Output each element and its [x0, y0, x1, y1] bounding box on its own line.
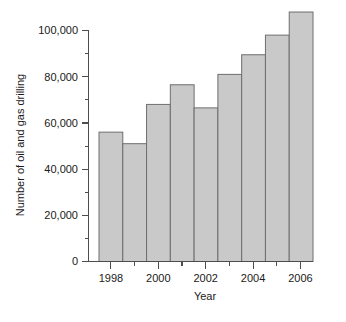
- x-axis-major-ticks: [111, 262, 301, 269]
- bar-1999: [123, 144, 147, 262]
- y-tick-label-100000: 100,000: [38, 24, 78, 36]
- bar-2000: [147, 104, 171, 261]
- y-axis-minor-ticks: [85, 54, 89, 239]
- y-tick-label-20000: 20,000: [44, 209, 78, 221]
- bar-2002: [194, 108, 218, 262]
- bar-2003: [218, 74, 242, 261]
- y-tick-label-40000: 40,000: [44, 163, 78, 175]
- bar-2006: [289, 12, 313, 261]
- x-tick-label-2000: 2000: [146, 272, 170, 284]
- bar-2005: [265, 35, 289, 261]
- y-tick-label-0: 0: [72, 255, 78, 267]
- bar-1998: [99, 132, 123, 261]
- x-axis-title: Year: [194, 290, 217, 302]
- x-tick-label-1998: 1998: [99, 272, 123, 284]
- y-tick-label-60000: 60,000: [44, 117, 78, 129]
- x-tick-label-2002: 2002: [193, 272, 217, 284]
- x-tick-label-2006: 2006: [288, 272, 312, 284]
- bar-2004: [242, 55, 266, 262]
- y-tick-label-80000: 80,000: [44, 71, 78, 83]
- x-tick-label-2004: 2004: [241, 272, 265, 284]
- bar-2001: [170, 85, 194, 262]
- chart-canvas: 0 20,000 40,000 60,000 80,000 100,000 Nu…: [0, 0, 346, 322]
- y-axis-title: Number of oil and gas drilling: [14, 74, 26, 216]
- bar-chart-figure: 0 20,000 40,000 60,000 80,000 100,000 Nu…: [0, 0, 346, 322]
- bars-group: [99, 12, 313, 261]
